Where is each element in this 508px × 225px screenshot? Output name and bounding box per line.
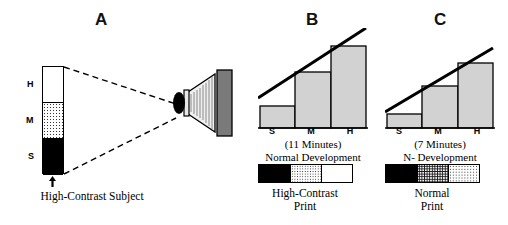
bar-s [260,106,295,128]
subject-caption: High-Contrast Subject [22,190,162,202]
print-segment-shadow [259,165,290,182]
axis-label-h: H [465,126,489,136]
chart-panel-c [385,28,495,133]
projection-line-bottom [64,118,176,174]
figure-container: A H M S High-Contrast Subject [0,0,508,225]
print-segment-highlight [448,165,479,182]
print-bar-c [385,164,480,183]
bar-m [295,72,331,128]
print-segment-highlight [321,165,352,182]
high-contrast-subject-bar [42,66,64,174]
print-segment-midtone [417,165,449,182]
axis-label-m: M [299,126,323,136]
caption-panel-c: (7 Minutes) N- Development [365,138,508,163]
zone-label-m: M [26,115,34,125]
axis-labels-b: S M H [258,126,368,138]
axis-label-m: M [426,126,450,136]
chart-panel-b [258,28,368,133]
axis-label-h: H [338,126,362,136]
print-segment-shadow [386,165,417,182]
print-caption-c-line2: Print [357,200,507,213]
development-label-c: N- Development [365,151,508,164]
up-arrow-icon [48,176,57,187]
subject-zone-midtone [43,103,63,139]
axis-label-s: S [387,126,411,136]
subject-zone-highlight [43,67,63,103]
panel-letter-c: C [434,10,446,30]
time-label-c: (7 Minutes) [365,138,508,151]
zone-label-s: S [28,151,34,161]
bar-m [422,86,458,128]
bellows-camera-icon [168,62,238,144]
panel-letter-a: A [95,10,107,30]
axis-labels-c: S M H [385,126,495,138]
bar-h [458,63,493,128]
print-caption-c-line1: Normal [357,187,507,200]
axis-label-s: S [260,126,284,136]
projection-line-top [64,67,176,104]
zone-label-h: H [27,79,34,89]
bar-h [331,46,366,128]
subject-zone-shadow [43,139,63,175]
print-bar-b [258,164,353,183]
print-caption-c: Normal Print [357,187,507,213]
print-segment-midtone [290,165,322,182]
panel-letter-b: B [306,10,318,30]
